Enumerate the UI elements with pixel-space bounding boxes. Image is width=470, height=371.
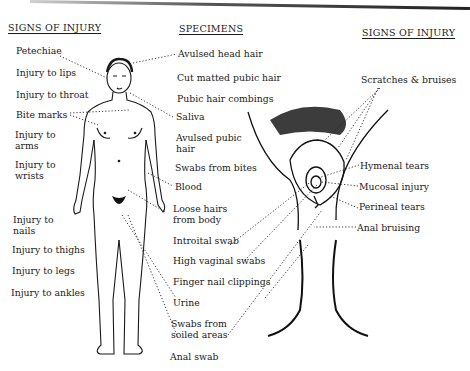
label-injury-throat: Injury to throat (16, 89, 89, 100)
label-injury-thighs: Injury to thighs (12, 244, 85, 255)
label-high-vaginal-swabs: High vaginal swabs (173, 255, 265, 266)
label-line-2: wrists (15, 170, 44, 181)
label-swabs-soiled-areas: Swabs fromsoiled areas (171, 318, 228, 340)
label-line-2: hair (176, 143, 195, 154)
label-injury-wrists: Injury towrists (15, 159, 56, 181)
label-line-2: from body (173, 214, 221, 225)
label-loose-hairs: Loose hairsfrom body (173, 203, 227, 225)
label-line-1: Avulsed pubic (176, 132, 242, 143)
label-line-2: soiled areas (171, 329, 228, 340)
label-line-1: Injury to (15, 159, 56, 170)
label-finger-nail-clippings: Finger nail clippings (173, 276, 270, 287)
label-introital-swab: Introital swab (173, 235, 239, 246)
label-scratches-bruises: Scratches & bruises (361, 74, 456, 85)
label-anal-bruising: Anal bruising (357, 222, 420, 233)
label-bite-marks: Bite marks (16, 109, 67, 120)
label-line-1: Loose hairs (173, 203, 227, 214)
label-petechiae: Petechiae (16, 45, 62, 56)
right-heading: SIGNS OF INJURY (362, 27, 455, 38)
label-injury-arms: Injury toarms (15, 129, 56, 151)
label-line-1: Injury to (13, 214, 54, 225)
label-pubic-hair-combings: Pubic hair combings (177, 93, 274, 104)
label-avulsed-head-hair: Avulsed head hair (178, 48, 263, 59)
label-avulsed-pubic-hair: Avulsed pubichair (176, 132, 242, 154)
label-saliva: Saliva (176, 111, 205, 122)
label-injury-nails: Injury tonails (13, 214, 54, 236)
label-blood: Blood (175, 181, 202, 192)
label-line-2: arms (15, 140, 39, 151)
label-injury-lips: Injury to lips (16, 67, 76, 78)
label-hymenal-tears: Hymenal tears (360, 160, 429, 171)
label-perineal-tears: Perineal tears (359, 201, 425, 212)
label-urine: Urine (173, 297, 200, 308)
label-injury-ankles: Injury to ankles (11, 287, 85, 298)
label-line-1: Swabs from (171, 318, 227, 329)
pubic-hair-shape (270, 107, 346, 135)
label-injury-legs: Injury to legs (12, 265, 75, 276)
left-heading: SIGNS OF INJURY (8, 22, 101, 33)
label-swabs-from-bites: Swabs from bites (175, 162, 257, 173)
female-figure (74, 59, 165, 354)
label-anal-swab: Anal swab (170, 351, 218, 362)
label-cut-matted-pubic-hair: Cut matted pubic hair (177, 72, 281, 83)
label-line-2: nails (13, 225, 35, 236)
center-heading: SPECIMENS (179, 23, 243, 34)
label-mucosal-injury: Mucosal injury (359, 181, 429, 192)
label-line-1: Injury to (15, 129, 56, 140)
pubic-hair-shape (112, 196, 126, 204)
